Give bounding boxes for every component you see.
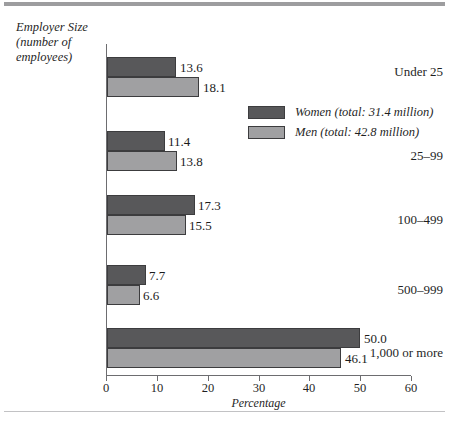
bar-value-men-under-25: 18.1 — [203, 80, 226, 96]
y-axis-title: Employer Size (number of employees) — [16, 20, 88, 65]
x-axis-title: Percentage — [106, 396, 411, 411]
bar-value-women-under-25: 13.6 — [180, 60, 203, 76]
legend-row-men: Men (total: 42.8 million) — [248, 122, 433, 142]
chart-legend: Women (total: 31.4 million) Men (total: … — [248, 102, 433, 142]
bar-value-men-500-999: 6.6 — [143, 288, 159, 304]
bar-women-25-99 — [107, 131, 165, 151]
bar-chart: Employer Size (number of employees) 0 10… — [0, 0, 449, 428]
bar-women-under-25 — [107, 57, 176, 77]
legend-swatch-men-icon — [248, 126, 285, 139]
bar-value-women-25-99: 11.4 — [168, 134, 190, 150]
bar-men-100-499 — [107, 215, 186, 235]
x-tick-label-30: 30 — [239, 381, 279, 396]
legend-swatch-women-icon — [248, 106, 285, 119]
bar-value-women-1000-or-more: 50.0 — [364, 331, 387, 347]
bar-men-25-99 — [107, 151, 177, 171]
legend-label-women: Women (total: 31.4 million) — [295, 105, 433, 120]
bar-women-1000-or-more — [107, 328, 360, 348]
x-tick-label-50: 50 — [340, 381, 380, 396]
x-tick-label-20: 20 — [188, 381, 228, 396]
x-tick-label-60: 60 — [391, 381, 431, 396]
category-label-500-999: 500–999 — [349, 282, 449, 298]
bar-men-1000-or-more — [107, 348, 341, 368]
x-tick-label-0: 0 — [86, 381, 126, 396]
category-label-under-25: Under 25 — [349, 64, 449, 80]
bar-value-men-100-499: 15.5 — [189, 218, 212, 234]
bar-men-500-999 — [107, 285, 140, 305]
x-tick-label-10: 10 — [137, 381, 177, 396]
bar-women-500-999 — [107, 265, 146, 285]
bar-women-100-499 — [107, 195, 195, 215]
bar-value-men-25-99: 13.8 — [180, 154, 203, 170]
bar-value-women-500-999: 7.7 — [149, 268, 165, 284]
bar-value-women-100-499: 17.3 — [198, 198, 221, 214]
x-tick-label-40: 40 — [289, 381, 329, 396]
bar-value-men-1000-or-more: 46.1 — [345, 351, 368, 367]
category-label-100-499: 100–499 — [349, 212, 449, 228]
category-label-25-99: 25–99 — [349, 148, 449, 164]
legend-row-women: Women (total: 31.4 million) — [248, 102, 433, 122]
bar-men-under-25 — [107, 77, 199, 97]
legend-label-men: Men (total: 42.8 million) — [295, 125, 419, 140]
